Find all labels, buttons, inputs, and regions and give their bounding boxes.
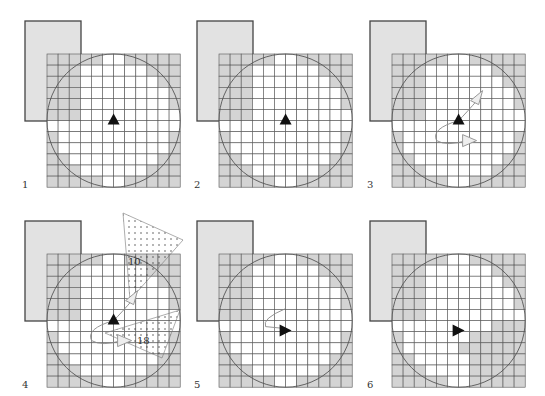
grid-cell (252, 298, 263, 309)
grid-cell (58, 165, 69, 176)
grid-cell (230, 165, 241, 176)
grid-cell (448, 65, 459, 76)
grid-cell (69, 276, 80, 287)
grid-cell (114, 54, 125, 65)
grid-cell (252, 165, 263, 176)
grid-cell (230, 365, 241, 376)
grid-cell (103, 343, 114, 354)
grid-cell (503, 165, 514, 176)
grid-cell (459, 343, 470, 354)
grid-cell (492, 354, 503, 365)
grid-cell (308, 154, 319, 165)
grid-cell (158, 365, 169, 376)
grid-cell (503, 176, 514, 187)
grid-cell (136, 298, 147, 309)
grid-cell (58, 110, 69, 121)
grid-cell (470, 65, 481, 76)
grid-cell (169, 143, 180, 154)
panel-number: 4 (22, 379, 28, 390)
grid-cell (308, 321, 319, 332)
grid-cell (286, 65, 297, 76)
grid-cell (103, 165, 114, 176)
grid-cell (319, 343, 330, 354)
grid-cell (492, 154, 503, 165)
grid-cell (481, 65, 492, 76)
grid-cell (275, 376, 286, 387)
grid-cell (69, 332, 80, 343)
grid-cell (330, 265, 341, 276)
grid-cell (448, 310, 459, 321)
grid-cell (286, 376, 297, 387)
grid-cell (341, 165, 352, 176)
grid-cell (403, 254, 414, 265)
grid-cell (459, 65, 470, 76)
grid-cell (103, 98, 114, 109)
grid-cell (91, 354, 102, 365)
grid-cell (80, 310, 91, 321)
grid-cell (414, 343, 425, 354)
grid-cell (308, 176, 319, 187)
grid-cell (330, 165, 341, 176)
grid-cell (514, 310, 525, 321)
grid-cell (219, 365, 230, 376)
panel-number: 6 (367, 379, 373, 390)
grid-cell (459, 87, 470, 98)
grid-cell (448, 298, 459, 309)
grid-cell (114, 354, 125, 365)
grid-cell (503, 254, 514, 265)
grid-cell (392, 265, 403, 276)
grid-cell (448, 265, 459, 276)
grid-cell (448, 287, 459, 298)
grid-cell (103, 276, 114, 287)
grid-cell (319, 287, 330, 298)
grid-cell (308, 310, 319, 321)
grid-cell (459, 287, 470, 298)
grid-cell (297, 321, 308, 332)
grid-cell (436, 76, 447, 87)
grid-cell (252, 254, 263, 265)
grid-cell (297, 87, 308, 98)
grid-cell (275, 98, 286, 109)
grid-cell (275, 354, 286, 365)
grid-cell (80, 354, 91, 365)
grid-cell (252, 310, 263, 321)
grid-cell (103, 65, 114, 76)
grid-cell (286, 298, 297, 309)
grid-cell (503, 265, 514, 276)
grid-cell (436, 354, 447, 365)
grid-cell (319, 121, 330, 132)
grid-cell (158, 143, 169, 154)
grid-cell (80, 110, 91, 121)
grid-cell (103, 287, 114, 298)
grid-cell (436, 154, 447, 165)
grid-cell (436, 110, 447, 121)
grid-cell (481, 98, 492, 109)
grid-cell (69, 298, 80, 309)
grid-cell (125, 154, 136, 165)
grid-cell (470, 276, 481, 287)
grid-cell (252, 343, 263, 354)
grid-cell (219, 54, 230, 65)
grid-cell (286, 343, 297, 354)
grid-cell (286, 76, 297, 87)
grid-cell (341, 287, 352, 298)
grid-cell (436, 265, 447, 276)
grid-cell (263, 87, 274, 98)
grid-cell (80, 276, 91, 287)
grid-cell (80, 98, 91, 109)
grid-cell (514, 143, 525, 154)
grid-cell (436, 287, 447, 298)
grid-cell (241, 287, 252, 298)
grid-cell (103, 376, 114, 387)
grid-cell (58, 98, 69, 109)
grid-cell (103, 154, 114, 165)
grid-cell (403, 143, 414, 154)
grid-cell (414, 143, 425, 154)
grid-cell (91, 310, 102, 321)
grid-cell (403, 343, 414, 354)
grid-cell (308, 121, 319, 132)
grid-cell (392, 321, 403, 332)
grid-cell (263, 343, 274, 354)
grid-cell (252, 54, 263, 65)
grid-cell (459, 265, 470, 276)
